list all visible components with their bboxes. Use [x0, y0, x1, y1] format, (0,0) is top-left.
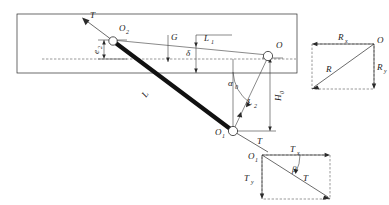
T-top-arrowhead — [82, 18, 90, 26]
label-R-vertex-O: O — [377, 35, 384, 45]
label-R: R — [325, 64, 332, 74]
label-alpha0-subscript: 0 — [235, 84, 238, 90]
label-e2-group: e 2 — [91, 46, 103, 54]
label-T-resultant: T — [303, 173, 309, 183]
label-O2: O — [119, 23, 126, 33]
label-T-lower: T — [257, 136, 263, 146]
label-T-vertex-O1-subscript: 1 — [255, 157, 258, 163]
Rx-arrowhead — [312, 42, 317, 46]
label-Rx: R — [337, 32, 344, 42]
label-T-top: T — [90, 10, 96, 20]
label-G: G — [171, 32, 178, 42]
label-O2-subscript: 2 — [126, 29, 129, 35]
link-L2 — [233, 57, 268, 131]
node-O2 — [109, 37, 117, 45]
Ty-arrowhead — [260, 194, 264, 199]
label-Tx: T — [290, 144, 296, 154]
label-T-vertex-O1: O — [248, 151, 255, 161]
label-L1-subscript: 1 — [211, 39, 214, 45]
R-resultant-line — [314, 44, 374, 87]
label-O1-subscript: 1 — [222, 133, 225, 139]
label-delta: δ — [186, 48, 191, 58]
T-lower-force-line — [233, 131, 268, 152]
diagram-canvas: T O 2 e 2 G δ L 1 O α 0 L 2 H 0 L — [0, 0, 389, 205]
label-H0: H — [273, 94, 283, 102]
label-Ry-subscript: y — [383, 68, 387, 74]
mechanism-force-diagram: T O 2 e 2 G δ L 1 O α 0 L 2 H 0 L — [0, 0, 389, 205]
label-alpha0: α — [228, 78, 233, 88]
label-e2-subscript: 2 — [97, 46, 103, 49]
e2-arrow-down — [102, 55, 106, 59]
T-resultant-line — [262, 155, 328, 197]
label-O1: O — [215, 127, 222, 137]
label-Ty-subscript: y — [250, 179, 254, 185]
delta-arrow-down — [194, 69, 198, 73]
H0-arrow-down — [268, 127, 272, 131]
label-beta: β — [291, 164, 297, 174]
label-L2-subscript: 2 — [254, 103, 257, 109]
delta-arrow-up — [194, 43, 198, 47]
link-bar-L — [113, 41, 233, 131]
label-L-bar: L — [139, 89, 151, 100]
label-Tx-subscript: x — [296, 150, 300, 156]
label-Ry: R — [376, 62, 383, 72]
label-O-main: O — [276, 40, 283, 50]
label-H0-group: H 0 — [273, 91, 285, 102]
Ry-arrowhead — [372, 84, 376, 89]
e2-arrow-up — [102, 40, 106, 44]
beam-outline — [17, 14, 297, 73]
Tx-arrowhead — [325, 153, 330, 157]
T-top-force-line — [84, 19, 112, 40]
label-Rx-subscript: x — [344, 38, 348, 44]
label-L-bar-group: L — [139, 89, 151, 100]
G-arrow-down — [166, 58, 170, 62]
label-e2: e — [91, 50, 101, 54]
label-H0-subscript: 0 — [279, 91, 285, 94]
node-O1 — [228, 126, 237, 135]
label-L2: L — [246, 97, 252, 107]
node-O — [263, 51, 272, 60]
label-Ty: T — [244, 173, 250, 183]
label-L1: L — [203, 33, 209, 43]
